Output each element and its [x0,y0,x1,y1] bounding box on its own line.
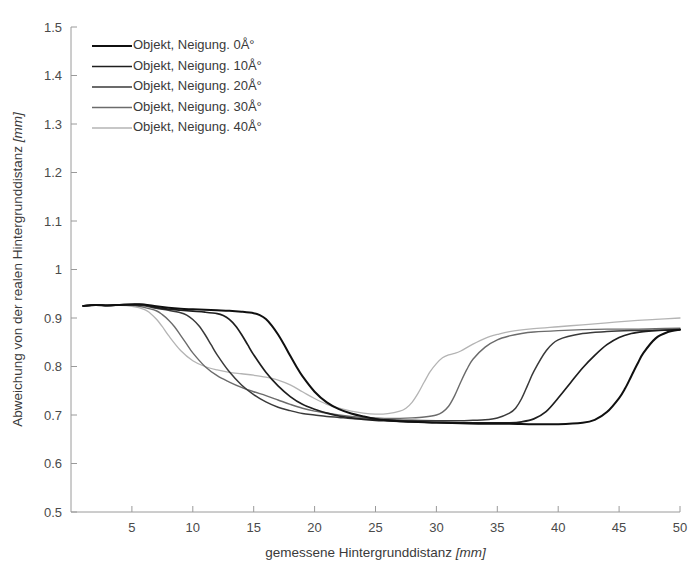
y-tick-label: 0.6 [44,456,62,471]
y-axis-title: Abweichung von der realen Hintergrunddis… [10,111,25,427]
y-tick-label: 1 [55,262,62,277]
series-line [83,305,680,421]
y-tick-label: 1.2 [44,165,62,180]
x-tick-label: 40 [551,520,565,535]
x-tick-label: 25 [368,520,382,535]
axis-title-text: Abweichung von der realen Hintergrunddis… [10,142,25,426]
series-line [83,304,680,424]
y-tick-label: 0.5 [44,505,62,520]
x-tick-label: 30 [429,520,443,535]
legend-label: Objekt, Neigung. 10Å° [133,58,262,73]
data-series-group [83,304,680,424]
y-tick-label: 0.8 [44,359,62,374]
series-line [83,305,680,419]
y-tick-label: 0.9 [44,311,62,326]
x-tick-label: 35 [490,520,504,535]
y-tick-label: 1.4 [44,68,62,83]
x-tick-label: 15 [246,520,260,535]
x-tick-label: 5 [128,520,135,535]
series-line [83,304,680,422]
axis-title-text: gemessene Hintergrunddistanz [265,545,456,560]
axis-ticks: 0.50.60.70.80.911.11.21.31.41.5510152025… [44,20,687,536]
y-tick-label: 1.3 [44,117,62,132]
axis-title-unit: [mm] [10,111,25,143]
x-tick-label: 50 [673,520,687,535]
chart-figure: 0.50.60.70.80.911.11.21.31.41.5510152025… [0,0,697,571]
y-tick-label: 1.5 [44,20,62,35]
y-tick-label: 1.1 [44,214,62,229]
y-tick-label: 0.7 [44,408,62,423]
line-chart: 0.50.60.70.80.911.11.21.31.41.5510152025… [0,0,697,571]
legend-label: Objekt, Neigung. 40Å° [133,119,262,134]
x-tick-label: 10 [186,520,200,535]
x-tick-label: 20 [307,520,321,535]
legend-label: Objekt, Neigung. 0Å° [133,37,255,52]
legend-label: Objekt, Neigung. 20Å° [133,78,262,93]
axis-title-unit: [mm] [455,545,487,560]
x-tick-label: 45 [612,520,626,535]
chart-legend: Objekt, Neigung. 0Å°Objekt, Neigung. 10Å… [92,37,262,134]
x-axis-title: gemessene Hintergrunddistanz [mm] [265,545,487,560]
legend-label: Objekt, Neigung. 30Å° [133,99,262,114]
